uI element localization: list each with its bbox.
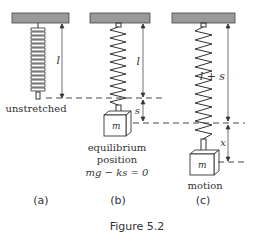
length-label-a: l [56,54,60,67]
ceiling-c [172,13,235,23]
spring-mass-diagram: m m l l s l + s x unstretc [0,0,260,245]
mass-label-c: m [198,160,207,170]
panel-tag-c: (c) [196,194,211,207]
panel-tag-a: (a) [33,194,48,207]
label-unstretched: unstretched [5,103,67,114]
stretch-label-b: s [135,105,140,116]
ceiling-a [12,13,69,23]
spring-unstretched [31,23,45,99]
length-label-b: l [136,55,140,68]
ceiling-b [90,13,150,23]
label-position: position [97,154,138,165]
mass-label-b: m [112,121,121,131]
length-arrow-a [60,24,64,98]
figure-caption: Figure 5.2 [110,220,165,233]
displacement-label-c: x [220,137,226,148]
spring-motion [195,23,212,151]
label-motion: motion [187,180,223,191]
length-label-c: l + s [200,70,226,83]
spring-equilibrium [110,23,126,112]
length-arrow-c [226,24,230,161]
panel-tag-b: (b) [110,194,126,207]
label-equilibrium: equilibrium [88,142,147,153]
equation-equilibrium: mg − ks = 0 [86,167,150,178]
length-arrow-b [141,24,145,121]
